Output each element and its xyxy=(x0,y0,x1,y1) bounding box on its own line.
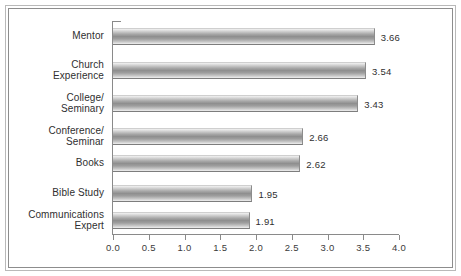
bar-value-label: 3.43 xyxy=(364,99,383,110)
x-axis-tick xyxy=(113,235,114,240)
bar-value-label: 3.66 xyxy=(381,32,400,43)
x-axis-tick-label: 0.5 xyxy=(142,242,156,253)
bar[interactable] xyxy=(113,212,250,229)
bar-value-label: 2.66 xyxy=(309,132,328,143)
bar[interactable] xyxy=(113,62,366,79)
bar[interactable] xyxy=(113,128,303,145)
x-axis-tick xyxy=(328,235,329,240)
x-axis-tick xyxy=(292,235,293,240)
bar[interactable] xyxy=(113,155,300,172)
bar[interactable] xyxy=(113,185,252,202)
x-axis-tick-label: 0.0 xyxy=(106,242,120,253)
x-axis-tick-label: 1.0 xyxy=(178,242,192,253)
category-label: Mentor xyxy=(72,30,104,42)
plot-area: 0.00.51.01.52.02.53.03.54.0Mentor3.66Chu… xyxy=(0,0,461,276)
bar-value-label: 1.91 xyxy=(256,216,275,227)
x-axis-tick xyxy=(363,235,364,240)
y-axis-top-tick xyxy=(112,21,121,22)
bar[interactable] xyxy=(113,28,375,45)
x-axis-tick-label: 3.0 xyxy=(321,242,335,253)
x-axis-tick xyxy=(220,235,221,240)
bar-value-label: 1.95 xyxy=(258,189,277,200)
x-axis-tick-label: 3.5 xyxy=(356,242,370,253)
bar-value-label: 3.54 xyxy=(372,66,391,77)
x-axis-tick xyxy=(149,235,150,240)
x-axis-tick-label: 2.5 xyxy=(285,242,299,253)
category-label: Books xyxy=(76,157,104,169)
x-axis-tick-label: 2.0 xyxy=(249,242,263,253)
x-axis-tick xyxy=(399,235,400,240)
bar[interactable] xyxy=(113,95,358,112)
category-label: Bible Study xyxy=(52,187,104,199)
category-label: Church Experience xyxy=(53,59,104,82)
category-label: Conference/ Seminar xyxy=(48,125,104,148)
x-axis-tick-label: 1.5 xyxy=(213,242,227,253)
bar-value-label: 2.62 xyxy=(306,159,325,170)
x-axis-tick xyxy=(185,235,186,240)
x-axis-tick xyxy=(256,235,257,240)
chart-figure: 0.00.51.01.52.02.53.03.54.0Mentor3.66Chu… xyxy=(0,0,461,276)
category-label: College/ Seminary xyxy=(61,92,104,115)
category-label: Communications Expert xyxy=(28,209,104,232)
x-axis-tick-label: 4.0 xyxy=(392,242,406,253)
